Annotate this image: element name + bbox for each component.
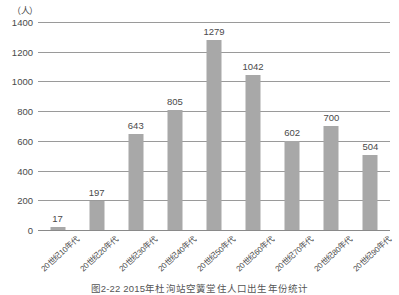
bar-slot: 17 — [38, 22, 77, 230]
bar[interactable] — [363, 155, 378, 230]
y-tick-label: 1200 — [1, 46, 33, 57]
bar[interactable] — [206, 40, 221, 230]
bar-value-label: 1042 — [243, 61, 264, 72]
bar-slot: 643 — [116, 22, 155, 230]
y-tick-label: 0 — [1, 225, 33, 236]
x-tick-label: 20世纪50年代 — [194, 233, 237, 273]
x-tick-label: 20世纪80年代 — [312, 233, 355, 273]
y-tick-label: 1000 — [1, 76, 33, 87]
x-tick-label: 20世纪10年代 — [38, 233, 81, 273]
y-tick-label: 1400 — [1, 17, 33, 28]
y-tick-label: 800 — [1, 106, 33, 117]
bar-slot: 700 — [312, 22, 351, 230]
bar-value-label: 17 — [52, 213, 63, 224]
y-tick-label: 600 — [1, 135, 33, 146]
bar[interactable] — [50, 227, 65, 230]
bar-value-label: 504 — [362, 141, 378, 152]
bar[interactable] — [246, 75, 261, 230]
bar[interactable] — [128, 134, 143, 230]
bar[interactable] — [324, 126, 339, 230]
x-tick-label: 20世纪40年代 — [155, 233, 198, 273]
bar[interactable] — [167, 110, 182, 230]
bar-slot: 197 — [77, 22, 116, 230]
y-tick-label: 400 — [1, 165, 33, 176]
x-tick-label: 20世纪90年代 — [351, 233, 394, 273]
bar[interactable] — [285, 141, 300, 230]
bar-value-label: 197 — [89, 187, 105, 198]
bar-value-label: 700 — [323, 112, 339, 123]
bar-slot: 1042 — [234, 22, 273, 230]
bar-slot: 504 — [351, 22, 390, 230]
bar-slot: 1279 — [194, 22, 233, 230]
figure-caption: 图2-22 2015年杜洵站空簧堂住人口出生年份统计 — [0, 281, 399, 295]
bar-slot: 805 — [155, 22, 194, 230]
x-tick-label: 20世纪20年代 — [77, 233, 120, 273]
y-tick-label: 200 — [1, 195, 33, 206]
bar-slot: 602 — [273, 22, 312, 230]
plot-area: 1719764380512791042602700504 — [38, 22, 390, 230]
x-tick-label: 20世纪60年代 — [233, 233, 276, 273]
x-tick-label: 20世纪70年代 — [272, 233, 315, 273]
bar[interactable] — [89, 201, 104, 230]
bar-value-label: 643 — [128, 120, 144, 131]
y-axis-unit-label: （人） — [12, 4, 38, 17]
bar-value-label: 1279 — [203, 26, 224, 37]
gridline — [38, 230, 390, 231]
bar-value-label: 602 — [284, 127, 300, 138]
x-tick-label: 20世纪30年代 — [116, 233, 159, 273]
bar-value-label: 805 — [167, 96, 183, 107]
